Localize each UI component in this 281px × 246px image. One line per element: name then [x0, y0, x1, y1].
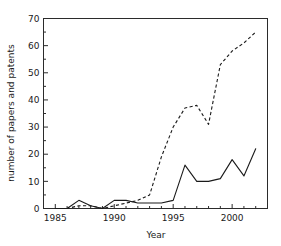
line-chart: 010203040506070 1985199019952000 Year nu…: [0, 0, 281, 246]
x-axis-tick-labels: 1985199019952000: [44, 213, 244, 223]
x-axis-title: Year: [145, 230, 165, 240]
y-tick-label: 20: [28, 149, 40, 159]
x-tick-label: 2000: [221, 213, 244, 223]
y-tick-label: 50: [28, 68, 40, 78]
plot-frame: [44, 19, 268, 209]
y-tick-label: 60: [28, 41, 40, 51]
y-tick-label: 40: [28, 95, 40, 105]
y-tick-label: 30: [28, 122, 40, 132]
x-axis-major-ticks: [55, 204, 232, 209]
y-tick-label: 70: [28, 14, 40, 24]
series-line-papers: [55, 149, 255, 209]
x-tick-label: 1985: [44, 213, 67, 223]
y-axis-tick-labels: 010203040506070: [28, 14, 40, 214]
chart-figure: 010203040506070 1985199019952000 Year nu…: [0, 0, 281, 246]
y-tick-label: 0: [34, 204, 40, 214]
x-tick-label: 1990: [103, 213, 126, 223]
y-tick-label: 10: [28, 177, 40, 187]
y-axis-title: number of papers and patents: [6, 44, 16, 182]
series-line-patents: [55, 32, 255, 208]
x-tick-label: 1995: [162, 213, 185, 223]
